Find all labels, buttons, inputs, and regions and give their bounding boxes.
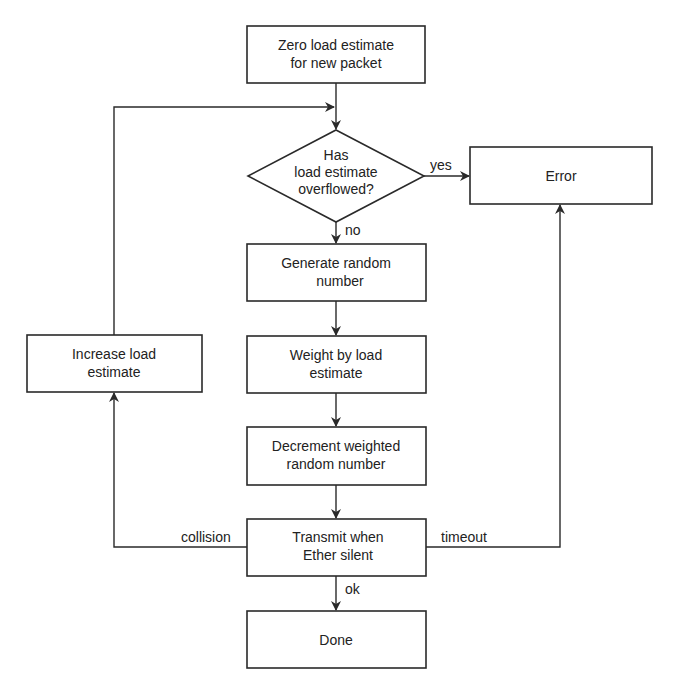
node-text-line: estimate — [310, 365, 363, 381]
node-text-line: Ether silent — [303, 547, 373, 563]
node-text-line: Error — [545, 168, 576, 184]
node-error: Error — [470, 147, 652, 204]
edge-label-ok: ok — [345, 581, 361, 597]
node-weight-by-load-estimate: Weight by load estimate — [247, 336, 426, 393]
node-text-line: number — [316, 273, 364, 289]
node-text-line: Zero load estimate — [278, 37, 394, 53]
flowchart: Zero load estimate for new packet Has lo… — [0, 0, 678, 690]
node-text-line: load estimate — [294, 164, 377, 180]
edge-transmit-to-error — [426, 205, 560, 547]
node-text-line: Has — [324, 147, 349, 163]
node-text-line: overflowed? — [298, 181, 374, 197]
edge-label-timeout: timeout — [441, 529, 487, 545]
node-done: Done — [247, 611, 426, 668]
node-text-line: random number — [287, 456, 386, 472]
edge-label-yes: yes — [430, 157, 452, 173]
node-generate-random-number: Generate random number — [247, 244, 426, 301]
node-text-line: Generate random — [281, 255, 391, 271]
node-transmit-when-ether-silent: Transmit when Ether silent — [247, 519, 426, 576]
node-text-line: Transmit when — [292, 529, 383, 545]
node-text-line: Weight by load — [290, 347, 382, 363]
edge-label-no: no — [345, 222, 361, 238]
node-text-line: Done — [319, 632, 353, 648]
node-text-line: Increase load — [72, 346, 156, 362]
node-text-line: Decrement weighted — [272, 438, 400, 454]
edge-label-collision: collision — [181, 529, 231, 545]
node-increase-load-estimate: Increase load estimate — [27, 335, 202, 392]
node-decrement-weighted-random-number: Decrement weighted random number — [247, 427, 426, 485]
node-text-line: estimate — [88, 364, 141, 380]
node-text-line: for new packet — [290, 55, 381, 71]
node-zero-load-estimate: Zero load estimate for new packet — [247, 26, 425, 83]
edge-transmit-to-increase — [114, 393, 247, 547]
node-overflow-decision: Has load estimate overflowed? — [248, 130, 424, 222]
